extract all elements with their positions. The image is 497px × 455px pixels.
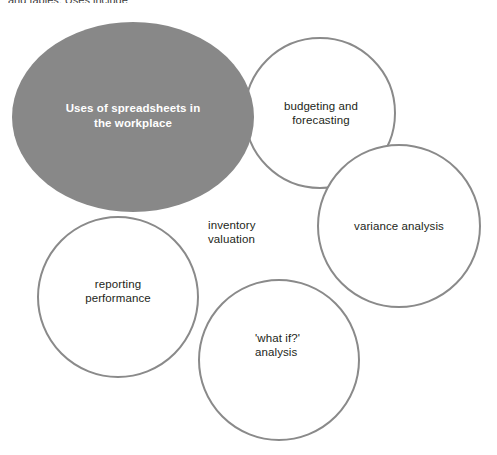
bubble-label-variance: variance analysis [339, 219, 459, 233]
diagram-canvas: and tables. Uses include: Uses of spread… [0, 0, 497, 455]
bubble-label-what-if: 'what if?' analysis [255, 331, 345, 359]
bubble-label-reporting: reporting performance [62, 277, 174, 305]
bubble-label-budgeting: budgeting and forecasting [267, 99, 375, 127]
bubble-label-inventory: inventory valuation [208, 218, 298, 246]
bubble-center-label: Uses of spreadsheets in the workplace [38, 101, 228, 131]
bubble-what-if[interactable] [199, 280, 359, 440]
